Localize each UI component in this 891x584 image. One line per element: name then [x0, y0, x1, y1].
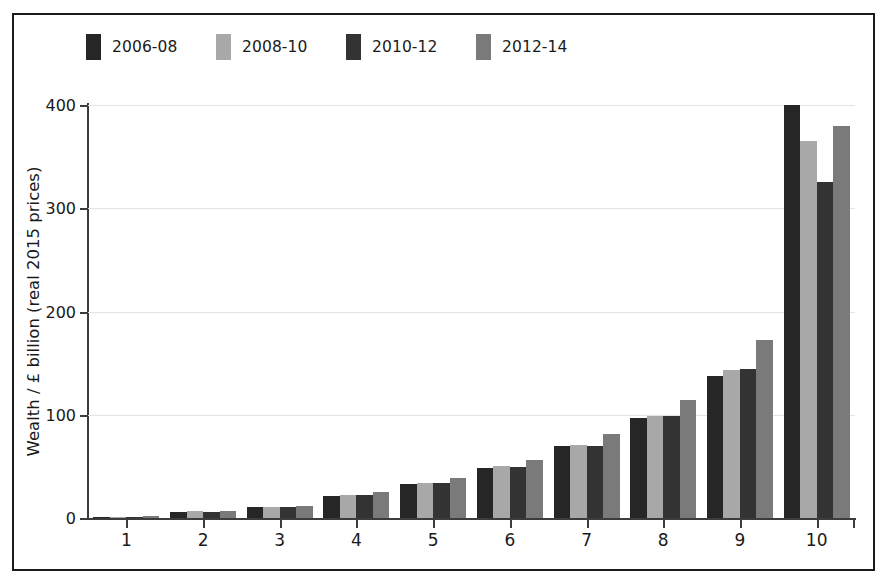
bar-4-2012-14 — [373, 492, 390, 518]
x-axis-tick-label: 10 — [797, 530, 837, 550]
bar-4-2010-12 — [356, 495, 373, 518]
y-axis-tick-label: 200 — [16, 302, 76, 321]
x-axis-tick-mark — [356, 520, 358, 528]
bar-8-2010-12 — [663, 416, 680, 518]
legend-entry-2012-14[interactable]: 2012-14 — [476, 33, 606, 61]
x-axis-tick-mark — [433, 520, 435, 528]
gridline — [88, 312, 855, 313]
legend-label: 2006-08 — [112, 38, 177, 56]
x-axis-tick-label: 9 — [720, 530, 760, 550]
x-axis-end-tick-mark — [853, 520, 855, 528]
x-axis-tick-mark — [280, 520, 282, 528]
legend-swatch-icon — [86, 34, 101, 60]
x-axis-tick-mark — [510, 520, 512, 528]
bar-5-2012-14 — [450, 478, 467, 518]
bar-6-2010-12 — [510, 467, 527, 518]
bar-7-2008-10 — [570, 445, 587, 518]
legend-label: 2010-12 — [372, 38, 437, 56]
bar-9-2008-10 — [723, 370, 740, 518]
bar-3-2012-14 — [296, 506, 313, 518]
bar-10-2006-08 — [784, 105, 801, 518]
legend-label: 2008-10 — [242, 38, 307, 56]
x-axis-tick-mark — [587, 520, 589, 528]
bar-8-2008-10 — [647, 416, 664, 518]
bar-2-2008-10 — [187, 511, 204, 518]
y-axis-tick-labels: 0100200300400 — [12, 0, 76, 584]
y-axis-tick-label: 300 — [16, 199, 76, 218]
bar-6-2008-10 — [493, 466, 510, 518]
x-axis-tick-mark — [126, 520, 128, 528]
bar-9-2012-14 — [756, 340, 773, 518]
bar-10-2008-10 — [800, 141, 817, 518]
bar-1-2008-10 — [110, 517, 127, 518]
bar-10-2012-14 — [833, 126, 850, 518]
gridline — [88, 208, 855, 209]
bar-6-2006-08 — [477, 468, 494, 518]
x-axis-tick-label: 4 — [336, 530, 376, 550]
legend-label: 2012-14 — [502, 38, 567, 56]
bar-7-2006-08 — [554, 446, 571, 518]
bar-9-2006-08 — [707, 376, 724, 518]
gridline — [88, 105, 855, 106]
y-axis-tick-mark — [80, 518, 88, 520]
bar-3-2010-12 — [280, 507, 297, 518]
x-axis-tick-label: 1 — [106, 530, 146, 550]
bar-5-2008-10 — [417, 483, 434, 518]
bar-8-2006-08 — [630, 418, 647, 518]
bar-7-2010-12 — [587, 446, 604, 518]
chart-legend: 2006-082008-102010-122012-14 — [86, 33, 606, 61]
legend-swatch-icon — [346, 34, 361, 60]
x-axis-tick-label: 8 — [643, 530, 683, 550]
bar-7-2012-14 — [603, 434, 620, 518]
y-axis-tick-label: 100 — [16, 405, 76, 424]
y-axis-tick-label: 400 — [16, 96, 76, 115]
bar-2-2006-08 — [170, 512, 187, 518]
bar-3-2008-10 — [263, 507, 280, 518]
bar-1-2012-14 — [143, 516, 160, 518]
x-axis-tick-label: 2 — [183, 530, 223, 550]
chart-figure: 2006-082008-102010-122012-14 Wealth / £ … — [0, 0, 891, 584]
bar-3-2006-08 — [247, 507, 264, 518]
y-axis-tick-mark — [80, 312, 88, 314]
bar-1-2010-12 — [126, 517, 143, 518]
y-axis-tick-label: 0 — [16, 509, 76, 528]
legend-entry-2008-10[interactable]: 2008-10 — [216, 33, 346, 61]
y-axis-tick-mark — [80, 105, 88, 107]
bar-5-2006-08 — [400, 484, 417, 518]
x-axis-tick-mark — [203, 520, 205, 528]
legend-swatch-icon — [216, 34, 231, 60]
bar-4-2008-10 — [340, 495, 357, 518]
y-axis-tick-mark — [80, 415, 88, 417]
bar-9-2010-12 — [740, 369, 757, 518]
bar-8-2012-14 — [680, 400, 697, 518]
bar-5-2010-12 — [433, 483, 450, 518]
bar-2-2012-14 — [220, 511, 237, 518]
x-axis-tick-label: 3 — [260, 530, 300, 550]
legend-entry-2006-08[interactable]: 2006-08 — [86, 33, 216, 61]
y-axis-tick-mark — [80, 208, 88, 210]
legend-entry-2010-12[interactable]: 2010-12 — [346, 33, 476, 61]
x-axis-tick-label: 5 — [413, 530, 453, 550]
x-axis-tick-mark — [817, 520, 819, 528]
bar-6-2012-14 — [526, 460, 543, 518]
x-axis-tick-mark — [740, 520, 742, 528]
x-axis-tick-mark — [663, 520, 665, 528]
bar-4-2006-08 — [323, 496, 340, 518]
bar-1-2006-08 — [93, 517, 110, 518]
x-axis-tick-label: 6 — [490, 530, 530, 550]
bar-10-2010-12 — [817, 182, 834, 518]
plot-area — [88, 105, 855, 518]
x-axis-tick-label: 7 — [567, 530, 607, 550]
bar-2-2010-12 — [203, 512, 220, 518]
legend-swatch-icon — [476, 34, 491, 60]
